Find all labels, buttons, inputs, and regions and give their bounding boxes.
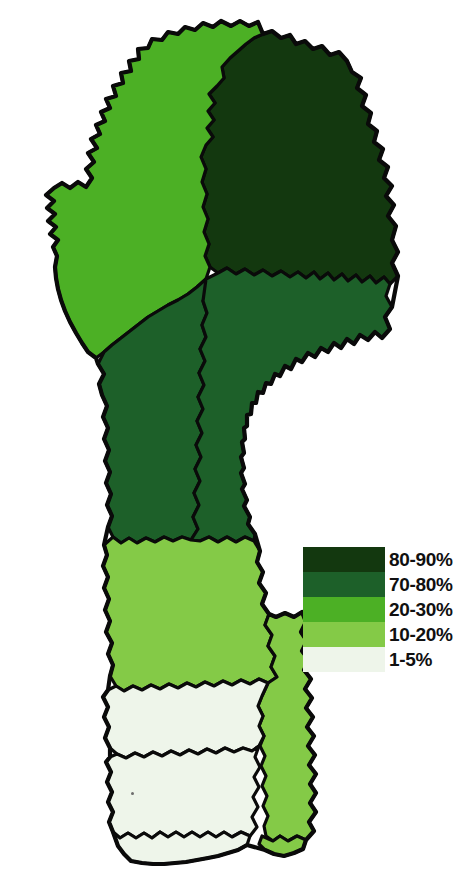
legend-row-80-90[interactable]: 80-90% (303, 547, 455, 572)
legend-label-80-90: 80-90% (389, 547, 453, 572)
map-region-east-central[interactable] (191, 268, 392, 542)
legend-swatch-10-20 (303, 622, 385, 647)
legend-row-70-80[interactable]: 70-80% (303, 572, 455, 597)
legend-swatch-20-30 (303, 597, 385, 622)
map-legend: 80-90% 70-80% 20-30% 10-20% 1-5% (303, 547, 455, 672)
map-region-north-east[interactable] (201, 31, 398, 284)
choropleth-map-figure: 80-90% 70-80% 20-30% 10-20% 1-5% (0, 0, 460, 892)
map-region-mid-south[interactable] (103, 537, 277, 691)
legend-swatch-1-5 (303, 647, 385, 672)
map-region-south-central[interactable] (106, 746, 260, 838)
map-region-south-west[interactable] (103, 679, 268, 758)
legend-label-10-20: 10-20% (389, 622, 453, 647)
legend-label-20-30: 20-30% (389, 597, 453, 622)
legend-swatch-70-80 (303, 572, 385, 597)
legend-row-1-5[interactable]: 1-5% (303, 647, 455, 672)
legend-label-70-80: 70-80% (389, 572, 453, 597)
benin-map-svg (0, 0, 460, 892)
legend-row-20-30[interactable]: 20-30% (303, 597, 455, 622)
scan-speck (131, 792, 134, 795)
legend-label-1-5: 1-5% (389, 647, 432, 672)
legend-swatch-80-90 (303, 547, 385, 572)
legend-row-10-20[interactable]: 10-20% (303, 622, 455, 647)
map-region-far-south-west[interactable] (113, 832, 250, 864)
